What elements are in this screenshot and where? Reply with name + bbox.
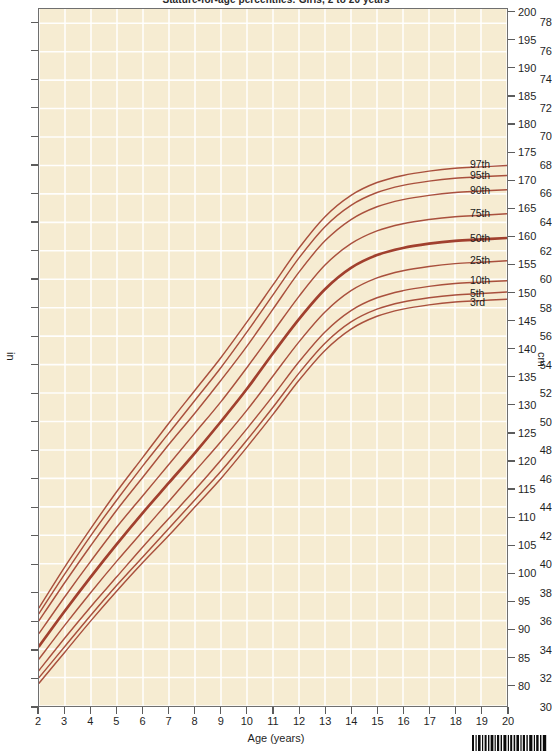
y-tick-mark-in [31, 221, 38, 222]
x-tick-label: 3 [61, 716, 67, 727]
x-tick-mark [142, 707, 143, 714]
y-tick-mark-cm [508, 488, 515, 489]
x-tick-label: 8 [192, 716, 198, 727]
x-tick-mark [455, 707, 456, 714]
y-tick-label-cm: 195 [518, 34, 548, 45]
x-tick-label: 6 [139, 716, 145, 727]
y-tick-label-cm: 80 [518, 680, 548, 691]
y-tick-mark-in [31, 478, 38, 479]
y-tick-label-cm: 120 [518, 456, 548, 467]
percentile-label-3rd: 3rd [470, 297, 485, 308]
y-tick-mark-cm [508, 236, 515, 237]
percentile-label-10th: 10th [470, 275, 490, 286]
x-tick-mark [37, 707, 38, 714]
y-tick-label-cm: 200 [518, 6, 548, 17]
y-tick-label-cm: 115 [518, 484, 548, 495]
percentile-label-95th: 95th [470, 170, 490, 181]
y-tick-mark-in [31, 450, 38, 451]
x-tick-mark [403, 707, 404, 714]
y-tick-label-cm: 100 [518, 568, 548, 579]
y-tick-mark-cm [508, 180, 515, 181]
y-tick-label-in: 60 [526, 274, 552, 285]
y-tick-label-cm: 160 [518, 231, 548, 242]
barcode-glyph [472, 735, 548, 751]
y-tick-label-in: 68 [526, 159, 552, 170]
y-tick-mark-in [31, 250, 38, 251]
y-tick-label-cm: 85 [518, 652, 548, 663]
percentile-label-50th: 50th [470, 232, 490, 243]
y-tick-mark-cm [508, 208, 515, 209]
y-tick-mark-in [31, 649, 38, 650]
y-tick-label-cm: 90 [518, 624, 548, 635]
y-tick-label-in: 30 [526, 702, 552, 713]
x-tick-label: 4 [87, 716, 93, 727]
x-tick-label: 11 [267, 716, 278, 727]
y-tick-mark-cm [508, 264, 515, 265]
y-tick-mark-in [31, 421, 38, 422]
y-tick-mark-in [31, 393, 38, 394]
y-tick-label-cm: 105 [518, 540, 548, 551]
y-tick-mark-in [31, 307, 38, 308]
x-tick-mark [377, 707, 378, 714]
x-tick-mark [168, 707, 169, 714]
x-tick-label: 15 [371, 716, 383, 727]
x-tick-label: 20 [502, 716, 514, 727]
percentile-label-90th: 90th [470, 185, 490, 196]
x-tick-label: 9 [218, 716, 224, 727]
percentile-label-97th: 97th [470, 159, 490, 170]
y-tick-mark-in [31, 50, 38, 51]
y-tick-mark-cm [508, 657, 515, 658]
y-tick-mark-in [31, 507, 38, 508]
x-tick-mark [272, 707, 273, 714]
x-tick-mark [351, 707, 352, 714]
x-tick-mark [325, 707, 326, 714]
y-tick-mark-cm [508, 629, 515, 630]
y-tick-label-cm: 130 [518, 399, 548, 410]
x-tick-label: 19 [476, 716, 488, 727]
x-tick-label: 14 [345, 716, 357, 727]
x-tick-mark [429, 707, 430, 714]
y-tick-label-in: 70 [526, 131, 552, 142]
y-tick-mark-in [31, 621, 38, 622]
x-tick-label: 5 [113, 716, 119, 727]
y-tick-mark-in [31, 79, 38, 80]
y-tick-mark-in [31, 164, 38, 165]
y-tick-label-cm: 135 [518, 371, 548, 382]
barcode [472, 735, 548, 751]
y-tick-mark-cm [508, 404, 515, 405]
x-tick-label: 10 [241, 716, 253, 727]
y-tick-label-cm: 180 [518, 119, 548, 130]
x-tick-label: 7 [165, 716, 171, 727]
y-tick-mark-cm [508, 95, 515, 96]
y-tick-label-in: 72 [526, 102, 552, 113]
percentile-label-75th: 75th [470, 208, 490, 219]
y-tick-label-cm: 95 [518, 596, 548, 607]
y-tick-label-in: 62 [526, 245, 552, 256]
y-tick-label-in: 76 [526, 45, 552, 56]
y-tick-label-cm: 145 [518, 315, 548, 326]
x-tick-mark [481, 707, 482, 714]
x-tick-mark [220, 707, 221, 714]
y-tick-label-cm: 125 [518, 427, 548, 438]
y-tick-mark-cm [508, 292, 515, 293]
y-tick-mark-cm [508, 67, 515, 68]
y-tick-mark-cm [508, 601, 515, 602]
y-tick-label-cm: 110 [518, 512, 548, 523]
chart-title: Stature-for-age percentiles: Girls, 2 to… [0, 0, 552, 7]
x-tick-label: 12 [293, 716, 305, 727]
y-tick-mark-in [31, 364, 38, 365]
y-tick-mark-cm [508, 573, 515, 574]
y-tick-mark-cm [508, 432, 515, 433]
percentile-label-25th: 25th [470, 255, 490, 266]
x-tick-mark [194, 707, 195, 714]
y-tick-label-cm: 190 [518, 62, 548, 73]
y-tick-mark-in [31, 678, 38, 679]
y-tick-label-cm: 170 [518, 175, 548, 186]
percentile-curves [39, 9, 507, 706]
y-tick-mark-cm [508, 517, 515, 518]
y-tick-mark-in [31, 564, 38, 565]
y-tick-label-in: 52 [526, 388, 552, 399]
y-tick-mark-in [31, 136, 38, 137]
x-tick-mark [299, 707, 300, 714]
